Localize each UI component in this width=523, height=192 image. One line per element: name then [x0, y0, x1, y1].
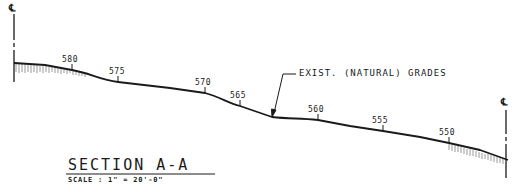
annotation-leader [272, 74, 297, 117]
scale-note: SCALE : 1" = 20'-0" [68, 177, 163, 184]
existing-grades-note: EXIST. (NATURAL) GRADES [299, 69, 447, 78]
contour-label-580: 580 [62, 56, 78, 64]
section-title: SECTION A-A [68, 158, 189, 173]
earth-hatching-right [449, 144, 503, 164]
left-centerline-symbol: ℄ [9, 3, 15, 13]
contour-label-570: 570 [195, 79, 211, 87]
contour-label-565: 565 [230, 92, 246, 100]
contour-label-550: 550 [439, 129, 455, 137]
right-centerline-symbol: ℄ [501, 97, 507, 107]
contour-label-555: 555 [372, 117, 388, 125]
contour-label-560: 560 [308, 106, 324, 114]
contour-label-575: 575 [109, 68, 125, 76]
